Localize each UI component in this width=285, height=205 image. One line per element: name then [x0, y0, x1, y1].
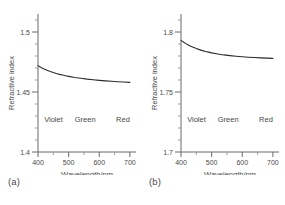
y-axis-title: Refractive index	[7, 56, 16, 110]
y-axis-title: Refractive index	[150, 56, 159, 110]
band-label-red: Red	[116, 115, 130, 124]
band-label-violet: Violet	[44, 115, 64, 124]
panel-b-caption: (b)	[149, 176, 161, 187]
panel-b: 1.71.751.8400500600700Wavelength/nmRefra…	[143, 0, 285, 205]
band-label-violet: Violet	[187, 115, 207, 124]
x-axis-title: Wavelength/nm	[61, 170, 113, 175]
dispersion-curve	[38, 66, 130, 83]
y-tick-label: 1.75	[159, 89, 173, 96]
x-tick-label: 600	[93, 159, 105, 166]
chart-a-svg: 1.41.451.5400500600700Wavelength/nmRefra…	[0, 0, 142, 175]
x-tick-label: 400	[175, 159, 187, 166]
x-tick-label: 600	[236, 159, 248, 166]
x-tick-label: 700	[124, 159, 136, 166]
y-tick-label: 1.4	[20, 149, 30, 156]
y-tick-label: 1.5	[20, 29, 30, 36]
band-label-green: Green	[218, 115, 239, 124]
x-tick-label: 500	[63, 159, 75, 166]
x-axis-title: Wavelength/nm	[204, 170, 256, 175]
dispersion-curve	[181, 40, 273, 58]
y-tick-label: 1.45	[16, 89, 30, 96]
x-tick-label: 500	[206, 159, 218, 166]
chart-b-svg: 1.71.751.8400500600700Wavelength/nmRefra…	[143, 0, 285, 175]
band-label-red: Red	[259, 115, 273, 124]
x-tick-label: 400	[32, 159, 44, 166]
panel-a-caption: (a)	[8, 176, 20, 187]
y-tick-label: 1.8	[163, 29, 173, 36]
dispersion-figure: 1.41.451.5400500600700Wavelength/nmRefra…	[0, 0, 285, 205]
panel-a: 1.41.451.5400500600700Wavelength/nmRefra…	[0, 0, 142, 205]
band-label-green: Green	[75, 115, 96, 124]
y-tick-label: 1.7	[163, 149, 173, 156]
x-tick-label: 700	[267, 159, 279, 166]
